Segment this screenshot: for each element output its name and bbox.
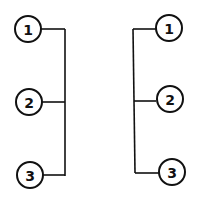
right-group: 1 2 3 (133, 15, 185, 185)
right-node-3-label: 3 (167, 165, 177, 181)
bracket-diagram: 1 2 3 1 2 3 (0, 0, 199, 199)
left-group: 1 2 3 (15, 16, 65, 188)
right-node-1-label: 1 (164, 21, 174, 37)
right-node-2: 2 (157, 86, 183, 112)
left-node-1: 1 (15, 16, 41, 42)
left-node-2-label: 2 (24, 95, 34, 111)
left-node-3: 3 (17, 162, 43, 188)
left-node-2: 2 (16, 89, 42, 115)
right-node-1: 1 (156, 15, 182, 41)
right-node-3: 3 (159, 159, 185, 185)
left-node-1-label: 1 (23, 22, 33, 38)
left-node-3-label: 3 (25, 168, 35, 184)
right-node-2-label: 2 (165, 92, 175, 108)
